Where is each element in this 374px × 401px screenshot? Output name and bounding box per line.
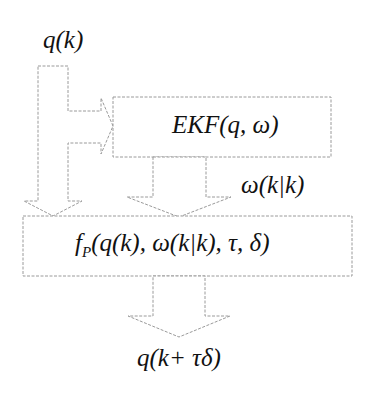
ekf-output-label: ω(k|k) bbox=[241, 171, 304, 199]
predictor-function-subscript: P bbox=[82, 244, 91, 260]
input-label: q(k) bbox=[43, 26, 83, 54]
ekf-block-label: EKF(q, ω) bbox=[172, 111, 279, 139]
diagram-canvas bbox=[0, 0, 374, 401]
input-split-arrow bbox=[24, 66, 113, 216]
output-arrow bbox=[128, 276, 230, 337]
ekf-output-arrow bbox=[127, 157, 231, 217]
predictor-block-label: fP(q(k), ω(k|k), τ, δ) bbox=[75, 229, 269, 261]
predictor-function-args: (q(k), ω(k|k), τ, δ) bbox=[91, 229, 269, 256]
predictor-function-name: f bbox=[75, 229, 82, 256]
output-label: q(k+ τδ) bbox=[137, 344, 221, 372]
